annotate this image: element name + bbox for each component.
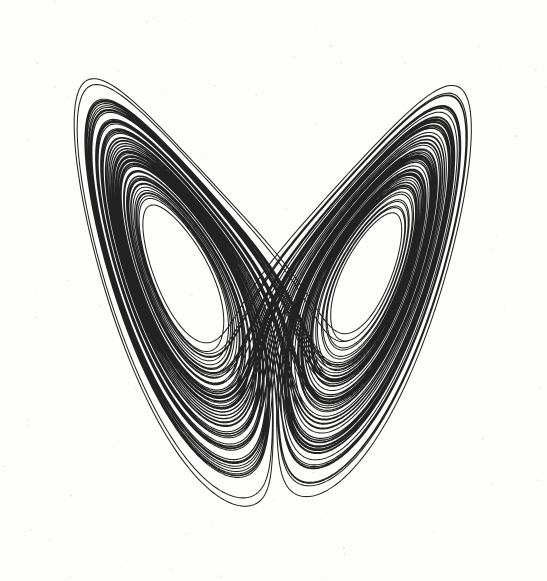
lorenz-attractor-figure xyxy=(0,0,547,581)
attractor-plot-canvas xyxy=(0,0,547,581)
